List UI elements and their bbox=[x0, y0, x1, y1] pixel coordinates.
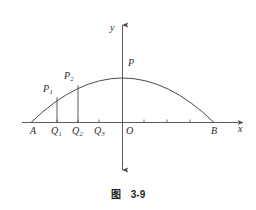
point-q3-letter: Q bbox=[94, 125, 101, 136]
figure-page: y x A B O Q1 Q2 Q3 P1 P2 P 图3-9 bbox=[0, 0, 256, 210]
figure-caption: 图3-9 bbox=[0, 186, 256, 201]
caption-number: 3-9 bbox=[131, 189, 145, 200]
point-q1-label: Q1 bbox=[51, 126, 61, 136]
figure-canvas bbox=[0, 0, 256, 210]
point-q3-label: Q3 bbox=[94, 126, 104, 136]
y-axis-label: y bbox=[110, 23, 114, 33]
point-q2-label: Q2 bbox=[72, 126, 82, 136]
point-p1-subscript: 1 bbox=[49, 88, 52, 95]
caption-label: 图 bbox=[111, 186, 121, 201]
point-q1-letter: Q bbox=[51, 125, 58, 136]
point-a-label: A bbox=[30, 126, 36, 136]
x-axis-label: x bbox=[238, 124, 242, 134]
point-p-label: P bbox=[128, 58, 134, 68]
point-q2-letter: Q bbox=[72, 125, 79, 136]
point-p1-label: P1 bbox=[43, 84, 52, 94]
point-b-label: B bbox=[211, 126, 217, 136]
point-q3-subscript: 3 bbox=[102, 130, 105, 137]
point-o-label: O bbox=[126, 126, 133, 136]
point-p2-label: P2 bbox=[64, 71, 73, 81]
point-q1-subscript: 1 bbox=[59, 130, 62, 137]
point-q2-subscript: 2 bbox=[80, 130, 83, 137]
point-p2-subscript: 2 bbox=[70, 75, 73, 82]
